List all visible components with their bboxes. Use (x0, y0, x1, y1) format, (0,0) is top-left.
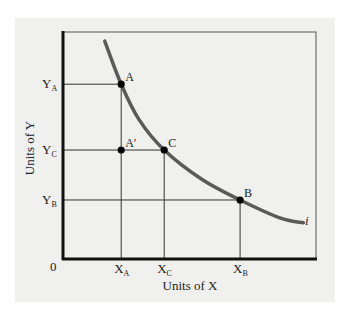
guide-lines (63, 84, 240, 259)
point-label-2: C (168, 136, 176, 150)
origin-label: 0 (50, 259, 57, 274)
point-2 (161, 146, 168, 153)
x-tick-label-2: XB (233, 261, 248, 278)
x-tick-label-1: XC (157, 261, 172, 278)
y-tick-label-1: YC (42, 142, 57, 159)
point-3 (237, 196, 244, 203)
tick-labels: XAXCXBYAYCYB (42, 76, 248, 278)
x-axis-label: Units of X (163, 278, 219, 293)
point-label-3: B (244, 186, 252, 200)
point-label-0: A (125, 70, 134, 84)
data-points: AA′CB (118, 70, 253, 203)
point-label-1: A′ (125, 136, 137, 150)
point-1 (118, 146, 125, 153)
plot-frame (63, 32, 316, 259)
x-tick-label-0: XA (114, 261, 129, 278)
indifference-curve-chart: AA′CB XAXCXBYAYCYB 0 Units of X Units of… (0, 0, 345, 317)
curve-label-i: i (305, 213, 309, 228)
point-0 (118, 81, 125, 88)
y-tick-label-0: YA (42, 76, 57, 93)
y-axis-label: Units of Y (22, 120, 37, 175)
y-tick-label-2: YB (42, 192, 57, 209)
indifference-curve-i (105, 41, 304, 223)
